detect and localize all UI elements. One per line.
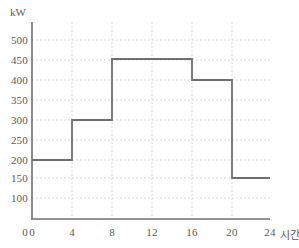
horizontal-gridlines — [32, 40, 270, 198]
plot-area — [0, 0, 299, 248]
step-chart: kW 500 450 400 350 300 250 200 150 100 0… — [0, 0, 299, 248]
step-data-line — [32, 59, 270, 178]
